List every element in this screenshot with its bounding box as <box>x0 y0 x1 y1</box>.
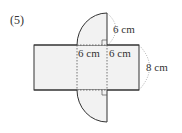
label-top-arc-radius: 6 cm <box>113 24 135 35</box>
label-left-segment: 6 cm <box>78 48 100 59</box>
label-right-segment: 6 cm <box>109 48 131 59</box>
problem-number: (5) <box>10 14 24 26</box>
label-height: 8 cm <box>146 62 168 73</box>
